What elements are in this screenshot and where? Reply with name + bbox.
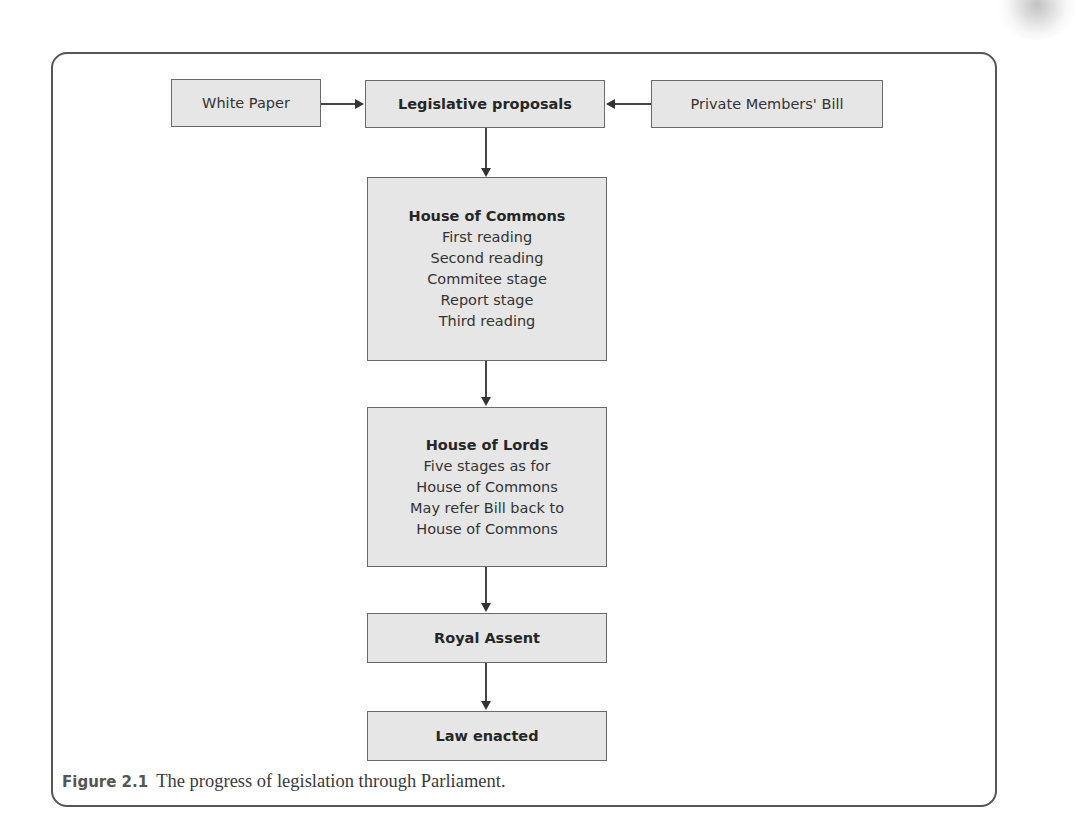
node-label: Private Members' Bill (691, 94, 844, 115)
arrow-head-down-icon (481, 701, 491, 710)
arrow-white-paper-to-proposals (321, 103, 355, 105)
arrow-lords-to-royal-assent (485, 567, 487, 604)
stage-committee: Commitee stage (427, 269, 547, 290)
node-law-enacted: Law enacted (367, 711, 607, 761)
node-title: Royal Assent (434, 628, 540, 649)
node-title: Legislative proposals (398, 94, 572, 115)
figure-caption: Figure 2.1The progress of legislation th… (62, 771, 506, 792)
node-label: White Paper (202, 93, 290, 114)
node-white-paper: White Paper (171, 79, 321, 127)
node-title: House of Commons (409, 206, 566, 227)
arrow-head-down-icon (481, 397, 491, 406)
node-line: House of Commons (416, 519, 558, 540)
node-line: Five stages as for (424, 456, 551, 477)
node-title: House of Lords (426, 435, 549, 456)
arrow-head-right-icon (355, 99, 364, 109)
node-legislative-proposals: Legislative proposals (365, 80, 605, 128)
arrow-private-bill-to-proposals (615, 103, 651, 105)
node-line: House of Commons (416, 477, 558, 498)
node-private-members-bill: Private Members' Bill (651, 80, 883, 128)
scan-shadow (997, 0, 1077, 40)
node-house-of-commons: House of Commons First reading Second re… (367, 177, 607, 361)
stage-third-reading: Third reading (439, 311, 536, 332)
arrow-head-down-icon (481, 603, 491, 612)
arrow-commons-to-lords (485, 361, 487, 398)
arrow-head-down-icon (481, 168, 491, 177)
node-line: May refer Bill back to (410, 498, 564, 519)
node-house-of-lords: House of Lords Five stages as for House … (367, 407, 607, 567)
stage-report: Report stage (441, 290, 534, 311)
arrow-royal-assent-to-law (485, 663, 487, 702)
node-title: Law enacted (435, 726, 538, 747)
node-royal-assent: Royal Assent (367, 613, 607, 663)
figure-caption-text: The progress of legislation through Parl… (156, 771, 505, 791)
stage-first-reading: First reading (442, 227, 532, 248)
arrow-head-left-icon (606, 99, 615, 109)
figure-number: Figure 2.1 (62, 773, 148, 791)
stage-second-reading: Second reading (430, 248, 543, 269)
arrow-proposals-to-commons (485, 128, 487, 168)
